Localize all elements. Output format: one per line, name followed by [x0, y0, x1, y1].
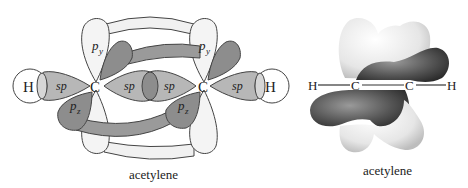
atom3d-h-right: H: [447, 78, 456, 93]
atom3d-c-right: C: [405, 78, 414, 93]
svg-text:p: p: [198, 38, 206, 53]
svg-text:p: p: [69, 98, 77, 113]
sigma-overlap-cc: [142, 72, 158, 100]
atom-c-right: C: [198, 79, 208, 95]
sigma-overlap-ch-left: [37, 73, 47, 99]
sigma-overlap-ch-right: [255, 73, 265, 99]
orbital-diagram: [13, 17, 289, 159]
svg-text:z: z: [76, 106, 81, 116]
caption-right: acetylene: [363, 163, 412, 178]
svg-text:y: y: [205, 46, 210, 56]
atom-c-left: C: [90, 79, 100, 95]
label-sp-left-inner: sp: [124, 79, 135, 93]
svg-text:p: p: [91, 38, 99, 53]
label-sp-right-outer: sp: [232, 79, 243, 93]
atom3d-c-left: C: [351, 78, 360, 93]
label-sp-left-outer: sp: [56, 79, 67, 93]
orbital-rendering: [310, 18, 449, 152]
svg-text:z: z: [184, 106, 189, 116]
svg-text:y: y: [98, 46, 103, 56]
atom-h-right: H: [265, 79, 276, 95]
atom-h-left: H: [23, 79, 34, 95]
atom3d-h-left: H: [308, 78, 317, 93]
acetylene-figure: H C C H sp sp sp sp p y p y p z p z acet…: [0, 0, 468, 188]
pi-bond-py-band: [106, 17, 194, 34]
caption-left: acetylene: [129, 167, 178, 182]
svg-text:p: p: [177, 98, 185, 113]
pi-bond-pz-band-back: [104, 142, 194, 159]
pi-bond-dark-upper-band: [128, 44, 200, 64]
label-sp-right-inner: sp: [164, 79, 175, 93]
